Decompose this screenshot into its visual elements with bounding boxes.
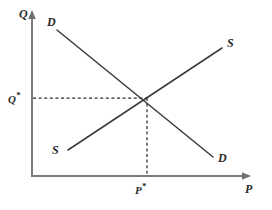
supply-curve [68,48,222,150]
demand-curve [57,30,213,157]
equilibrium-quantity-label: Q* [8,91,21,105]
demand-curve-label-bottom: D [218,152,227,164]
equilibrium-price-label: P* [135,182,146,196]
equilibrium-quantity-star: * [16,90,21,100]
equilibrium-quantity-letter: Q [8,93,16,105]
x-axis-arrow-icon [242,172,251,180]
supply-curve-label-top: S [227,37,234,49]
chart-canvas [0,0,272,210]
equilibrium-price-star: * [142,181,147,191]
supply-curve-label-bottom: S [52,144,59,156]
equilibrium-price-letter: P [135,184,142,196]
demand-curve-label-top: D [47,16,56,28]
y-axis-label: Q [19,8,28,20]
x-axis-label: P [245,183,253,195]
y-axis-arrow-icon [28,10,36,19]
supply-demand-figure: Q P D D S S Q* P* [0,0,272,210]
